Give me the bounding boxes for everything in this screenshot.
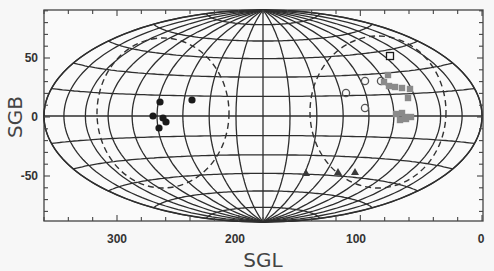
gray-square-marker <box>407 86 413 92</box>
filled-black-circle-marker <box>162 118 169 125</box>
projection-grid <box>44 10 482 222</box>
gray-square-marker <box>397 117 403 123</box>
x-axis-title: SGL <box>243 248 283 271</box>
gray-square-marker <box>399 85 405 91</box>
sky-map-chart: 300 200 100 0 50 0 -50 SGL SGB <box>0 0 494 271</box>
gray-square-marker <box>392 84 398 90</box>
open-square-marker <box>387 53 394 60</box>
filled-black-circle-marker <box>155 124 162 131</box>
y-tick-50: 50 <box>25 51 39 65</box>
filled-black-circle-marker <box>188 96 195 103</box>
x-tick-0: 0 <box>478 232 485 246</box>
gray-square-marker <box>385 72 391 78</box>
gray-square-marker <box>403 116 409 122</box>
y-tick-minus-50: -50 <box>21 169 39 183</box>
filled-black-circle-marker <box>156 98 163 105</box>
y-axis-title: SGB <box>3 96 27 138</box>
x-tick-200: 200 <box>225 232 245 246</box>
filled-black-circle-marker <box>149 112 156 119</box>
gray-square-marker <box>393 111 399 117</box>
x-tick-300: 300 <box>107 232 127 246</box>
y-tick-0: 0 <box>31 110 38 124</box>
gray-square-marker <box>405 95 411 101</box>
x-tick-100: 100 <box>346 232 366 246</box>
gray-square-marker <box>386 83 392 89</box>
